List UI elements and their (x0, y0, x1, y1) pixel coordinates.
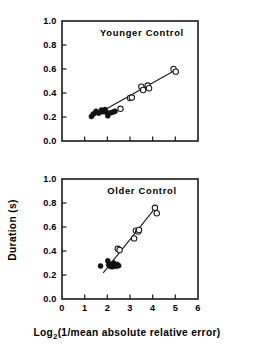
data-point-top-open-4 (140, 87, 145, 92)
data-point-top-open-6 (146, 86, 151, 91)
y-tick-label-top-4: 0.8 (43, 40, 56, 50)
plot-frame-top (62, 21, 198, 141)
x-tick-label-0: 0 (59, 303, 64, 313)
y-tick-label-top-5: 1.0 (43, 16, 56, 26)
y-tick-label-bottom-2: 0.4 (43, 246, 57, 256)
data-point-bottom-open-6 (152, 205, 157, 210)
data-point-bottom-open-5 (136, 227, 141, 232)
data-point-top-filled-11 (113, 109, 118, 114)
x-axis-title: Log2(1/mean absolute relative error) (33, 327, 220, 341)
x-tick-label-4: 4 (150, 303, 156, 313)
data-point-top-open-8 (173, 69, 178, 74)
y-tick-label-top-1: 0.2 (43, 112, 56, 122)
data-point-bottom-open-2 (131, 236, 136, 241)
data-point-bottom-open-1 (117, 247, 122, 252)
x-axis-title-main: Log (33, 327, 53, 338)
y-tick-label-top-0: 0.0 (43, 136, 56, 146)
data-point-top-open-0 (118, 106, 123, 111)
x-tick-label-1: 1 (82, 303, 87, 313)
y-tick-label-top-2: 0.4 (43, 88, 57, 98)
panel-title-bottom: Older Control (107, 185, 177, 196)
y-tick-label-bottom-1: 0.2 (43, 270, 56, 280)
x-tick-label-2: 2 (105, 303, 110, 313)
x-tick-label-6: 6 (195, 303, 200, 313)
y-axis-title: Duration (s) (7, 199, 18, 260)
y-tick-label-bottom-5: 1.0 (43, 174, 56, 184)
x-axis-title-rest: (1/mean absolute relative error) (58, 327, 221, 338)
x-tick-label-3: 3 (127, 303, 132, 313)
data-point-bottom-open-7 (154, 211, 159, 216)
data-point-bottom-filled-10 (116, 263, 121, 268)
panel-title-top: Younger Control (100, 27, 184, 38)
y-tick-label-bottom-4: 0.8 (43, 198, 56, 208)
x-tick-label-5: 5 (173, 303, 178, 313)
figure-container: 0.00.20.40.60.81.0Younger Control0123456… (0, 0, 254, 357)
panel-top: 0.00.20.40.60.81.0Younger Control (43, 16, 198, 146)
panel-bottom: 01234560.00.20.40.60.81.0Older Control (43, 174, 201, 312)
y-tick-label-bottom-0: 0.0 (43, 294, 56, 304)
data-point-top-open-2 (129, 95, 134, 100)
y-tick-label-top-3: 0.6 (43, 64, 56, 74)
chart-svg: 0.00.20.40.60.81.0Younger Control0123456… (0, 0, 254, 357)
y-tick-label-bottom-3: 0.6 (43, 222, 56, 232)
data-point-bottom-filled-0 (98, 264, 103, 269)
